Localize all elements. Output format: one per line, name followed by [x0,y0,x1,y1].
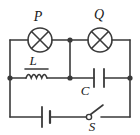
junction-dot-left-middle [7,75,12,80]
inductor-coil [26,75,47,79]
label-lamp-p: P [33,9,43,24]
label-capacitor-c: C [81,83,90,98]
circuit-diagram: P Q L C S [0,0,140,135]
circuit-schematic-svg: P Q L C S [0,0,140,135]
label-switch-s: S [89,119,96,134]
label-lamp-q: Q [94,7,104,22]
switch-blade[interactable] [91,105,104,115]
label-inductor-l: L [28,53,36,68]
wire-group [7,28,132,127]
junction-dot-center-top [67,37,72,42]
junction-dot-right-middle [127,75,132,80]
junction-dot-center-middle [67,75,72,80]
